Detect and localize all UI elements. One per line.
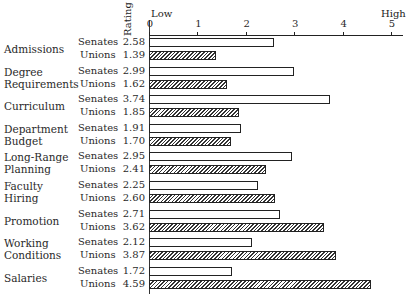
x-tick bbox=[391, 32, 392, 36]
bar-unions bbox=[149, 137, 231, 146]
value-label-unions: 1.70 bbox=[115, 135, 145, 147]
series-label-unions: Unions bbox=[80, 163, 116, 175]
series-label-senates: Senates bbox=[78, 179, 118, 191]
category-label-line1: Degree bbox=[4, 66, 79, 78]
category-label-line2: Budget bbox=[4, 135, 68, 147]
x-tick-label: 0 bbox=[143, 18, 157, 29]
series-label-unions: Unions bbox=[80, 221, 116, 233]
value-label-senates: 2.99 bbox=[115, 65, 145, 77]
series-label-senates: Senates bbox=[78, 150, 118, 162]
bar-senates bbox=[149, 181, 258, 190]
category-label-line1: Faculty bbox=[4, 180, 43, 192]
x-tick-label: 1 bbox=[191, 18, 205, 29]
category-label: DegreeRequirements bbox=[4, 66, 79, 90]
x-tick-label: 2 bbox=[240, 18, 254, 29]
x-tick-label: 5 bbox=[385, 18, 399, 29]
category-label-line2: Requirements bbox=[4, 78, 79, 90]
bar-senates bbox=[149, 95, 330, 104]
category-label-line1: Admissions bbox=[4, 43, 64, 55]
value-label-senates: 2.12 bbox=[115, 236, 145, 248]
bar-unions bbox=[149, 280, 371, 289]
value-label-unions: 2.60 bbox=[115, 192, 145, 204]
series-label-unions: Unions bbox=[80, 192, 116, 204]
category-label-line2: Planning bbox=[4, 163, 68, 175]
bar-senates bbox=[149, 267, 232, 276]
bar-unions bbox=[149, 194, 275, 203]
category-label: Admissions bbox=[4, 43, 64, 55]
series-label-senates: Senates bbox=[78, 208, 118, 220]
bar-unions bbox=[149, 51, 216, 60]
series-label-unions: Unions bbox=[80, 106, 116, 118]
x-tick bbox=[294, 32, 295, 36]
value-label-unions: 1.85 bbox=[115, 106, 145, 118]
series-label-unions: Unions bbox=[80, 249, 116, 261]
bar-senates bbox=[149, 152, 292, 161]
x-tick bbox=[197, 32, 198, 36]
series-label-senates: Senates bbox=[78, 93, 118, 105]
value-label-unions: 3.87 bbox=[115, 249, 145, 261]
category-label-line1: Promotion bbox=[4, 215, 59, 227]
category-label: DepartmentBudget bbox=[4, 123, 68, 147]
value-label-unions: 2.41 bbox=[115, 163, 145, 175]
x-tick bbox=[343, 32, 344, 36]
category-label: FacultyHiring bbox=[4, 180, 43, 204]
category-label-line1: Working bbox=[4, 237, 61, 249]
value-label-unions: 3.62 bbox=[115, 221, 145, 233]
bar-unions bbox=[149, 251, 336, 260]
category-label: Salaries bbox=[4, 272, 47, 284]
value-label-unions: 4.59 bbox=[115, 278, 145, 290]
value-label-unions: 1.62 bbox=[115, 78, 145, 90]
series-label-unions: Unions bbox=[80, 78, 116, 90]
series-label-unions: Unions bbox=[80, 49, 116, 61]
value-label-senates: 2.95 bbox=[115, 150, 145, 162]
bar-senates bbox=[149, 210, 280, 219]
bar-senates bbox=[149, 67, 294, 76]
category-label-line2: Hiring bbox=[4, 192, 43, 204]
bar-senates bbox=[149, 38, 274, 47]
category-label: Curriculum bbox=[4, 100, 65, 112]
bar-unions bbox=[149, 108, 239, 117]
bar-unions bbox=[149, 223, 324, 232]
bar-senates bbox=[149, 124, 241, 133]
series-label-senates: Senates bbox=[78, 36, 118, 48]
axis-title-rating: Rating bbox=[122, 2, 133, 36]
category-label: Promotion bbox=[4, 215, 59, 227]
value-label-senates: 1.91 bbox=[115, 122, 145, 134]
series-label-unions: Unions bbox=[80, 135, 116, 147]
category-label: WorkingConditions bbox=[4, 237, 61, 261]
value-label-senates: 2.25 bbox=[115, 179, 145, 191]
category-label-line1: Long-Range bbox=[4, 151, 68, 163]
series-label-senates: Senates bbox=[78, 236, 118, 248]
value-label-senates: 1.72 bbox=[115, 265, 145, 277]
value-label-unions: 1.39 bbox=[115, 49, 145, 61]
x-tick bbox=[246, 32, 247, 36]
x-tick-label: 3 bbox=[288, 18, 302, 29]
value-label-senates: 3.74 bbox=[115, 93, 145, 105]
value-label-senates: 2.58 bbox=[115, 36, 145, 48]
value-label-senates: 2.71 bbox=[115, 208, 145, 220]
series-label-unions: Unions bbox=[80, 278, 116, 290]
category-label: Long-RangePlanning bbox=[4, 151, 68, 175]
bar-unions bbox=[149, 165, 266, 174]
series-label-senates: Senates bbox=[78, 265, 118, 277]
series-label-senates: Senates bbox=[78, 65, 118, 77]
x-axis-line bbox=[149, 35, 403, 36]
series-label-senates: Senates bbox=[78, 122, 118, 134]
category-label-line1: Salaries bbox=[4, 272, 47, 284]
category-label-line1: Curriculum bbox=[4, 100, 65, 112]
x-tick bbox=[149, 32, 150, 36]
category-label-line1: Department bbox=[4, 123, 68, 135]
bar-senates bbox=[149, 238, 252, 247]
x-tick-label: 4 bbox=[337, 18, 351, 29]
category-label-line2: Conditions bbox=[4, 249, 61, 261]
bar-unions bbox=[149, 80, 227, 89]
